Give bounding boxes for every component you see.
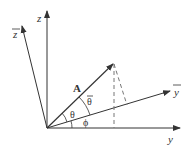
y-axis-label: y <box>167 133 173 145</box>
z-axis-label: z <box>36 12 42 24</box>
dashed-projection-to-ybar <box>114 64 127 105</box>
phi-label: ϕ <box>83 117 88 128</box>
vector-a-label: A <box>73 82 81 94</box>
theta-label: θ <box>70 109 75 120</box>
y-bar-axis-label: y <box>173 86 179 98</box>
z-bar-axis <box>22 26 47 128</box>
theta-arc <box>62 113 67 122</box>
coordinate-diagram: z z y y A θ θ ϕ <box>0 0 192 156</box>
phi-arc <box>71 121 72 128</box>
z-bar-axis-label: z <box>12 28 18 40</box>
theta-bar-label: θ <box>87 96 92 107</box>
